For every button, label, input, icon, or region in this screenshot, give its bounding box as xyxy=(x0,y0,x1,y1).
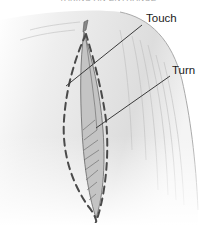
label-touch: Touch xyxy=(146,12,177,24)
illustration xyxy=(0,0,201,226)
label-turn: Turn xyxy=(172,64,195,76)
